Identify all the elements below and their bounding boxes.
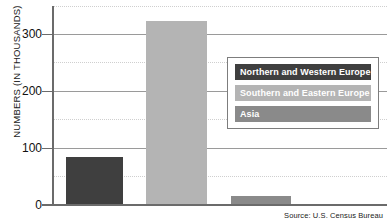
source-note: Source: U.S. Census Bureau bbox=[284, 211, 383, 220]
gridline-minor-350 bbox=[52, 6, 387, 7]
legend: Northern and Western Europe Southern and… bbox=[227, 57, 379, 129]
legend-label-southern-and-eastern-europe: Southern and Eastern Europe bbox=[240, 88, 370, 98]
legend-item-southern-and-eastern-europe[interactable]: Southern and Eastern Europe bbox=[235, 85, 371, 101]
y-tick-label-200: 200 bbox=[8, 85, 42, 97]
y-tick-label-300: 300 bbox=[8, 28, 42, 40]
x-axis-line bbox=[42, 204, 387, 206]
y-tick-mark-300 bbox=[42, 34, 53, 35]
y-axis-line bbox=[52, 6, 54, 205]
gridline-major-100 bbox=[52, 148, 387, 149]
y-tick-mark-200 bbox=[42, 91, 53, 92]
legend-item-northern-and-western-europe[interactable]: Northern and Western Europe bbox=[235, 64, 371, 80]
y-tick-mark-100 bbox=[42, 148, 53, 149]
legend-item-asia[interactable]: Asia bbox=[235, 106, 371, 122]
bar-northern-and-western-europe[interactable] bbox=[66, 157, 123, 205]
gridline-major-300 bbox=[52, 34, 387, 35]
y-tick-label-0: 0 bbox=[8, 199, 42, 211]
y-tick-label-100: 100 bbox=[8, 142, 42, 154]
legend-label-asia: Asia bbox=[240, 109, 259, 119]
bar-southern-and-eastern-europe[interactable] bbox=[146, 21, 207, 205]
y-axis-tick-labels: 300 200 100 0 bbox=[8, 0, 42, 222]
legend-label-northern-and-western-europe: Northern and Western Europe bbox=[240, 67, 371, 77]
y-tick-mark-0 bbox=[42, 205, 53, 206]
bar-chart: NUMBERS (IN THOUSANDS) 300 200 100 0 Nor… bbox=[0, 0, 387, 222]
